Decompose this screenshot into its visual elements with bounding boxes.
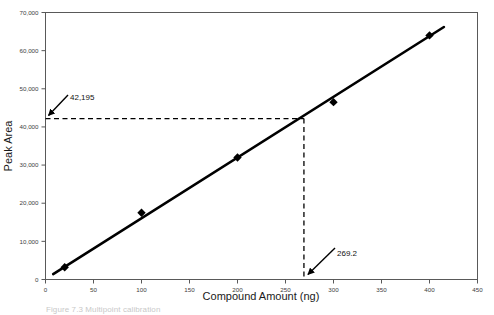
x-tick-label: 50 bbox=[90, 286, 97, 293]
y-tick-label: 0 bbox=[35, 276, 39, 283]
x-tick-label: 350 bbox=[376, 286, 387, 293]
y-axis-ticks: 010,00020,00030,00040,00050,00060,00070,… bbox=[20, 9, 46, 283]
y-tick-label: 20,000 bbox=[20, 199, 39, 206]
y-tick-label: 30,000 bbox=[20, 161, 39, 168]
figure-caption: Figure 7.3 Multipoint calibration bbox=[46, 305, 160, 314]
x-tick-label: 450 bbox=[472, 286, 483, 293]
x-tick-label: 300 bbox=[328, 286, 339, 293]
x-tick-label: 0 bbox=[44, 286, 48, 293]
y-tick-label: 60,000 bbox=[20, 47, 39, 54]
y-tick-label: 10,000 bbox=[20, 238, 39, 245]
y-tick-label: 70,000 bbox=[20, 9, 39, 16]
x-axis-title: Compound Amount (ng) bbox=[203, 290, 320, 302]
figure-container: 010,00020,00030,00040,00050,00060,00070,… bbox=[0, 0, 494, 315]
x-tick-label: 400 bbox=[424, 286, 435, 293]
y-tick-label: 40,000 bbox=[20, 123, 39, 130]
calibration-chart: 010,00020,00030,00040,00050,00060,00070,… bbox=[0, 0, 494, 315]
x-tick-label: 100 bbox=[136, 286, 147, 293]
calibration-trend-line bbox=[53, 27, 444, 274]
compound-amount-annotation-label: 269.2 bbox=[337, 249, 358, 258]
x-tick-label: 150 bbox=[184, 286, 195, 293]
y-tick-label: 50,000 bbox=[20, 85, 39, 92]
peak-area-annotation-label: 42,195 bbox=[70, 93, 95, 102]
y-axis-title: Peak Area bbox=[2, 120, 14, 172]
